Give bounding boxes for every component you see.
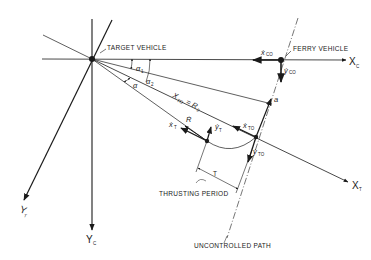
svg-text:T: T xyxy=(174,125,177,130)
svg-text:1: 1 xyxy=(141,69,144,74)
dimension-extension-left xyxy=(196,141,207,172)
xt-axis-label: X T xyxy=(352,180,362,192)
target-leader xyxy=(100,49,106,53)
svg-text:TO: TO xyxy=(176,98,184,105)
svg-text:ẋ: ẋ xyxy=(260,48,265,57)
target-vehicle-label: TARGET VEHICLE xyxy=(107,44,167,51)
ferry-vehicle-label: FERRY VEHICLE xyxy=(293,45,349,52)
ferry-vehicle-point xyxy=(278,57,284,63)
svg-text:C: C xyxy=(93,241,97,246)
alpha-label: α xyxy=(133,81,138,90)
svg-text:CO: CO xyxy=(289,70,296,75)
xc-axis xyxy=(42,59,346,60)
svg-text:T: T xyxy=(219,128,222,133)
svg-text:C: C xyxy=(356,64,360,69)
xc-axis-label: X C xyxy=(349,56,360,69)
svg-text:X: X xyxy=(352,180,359,191)
alpha1-arc xyxy=(131,59,132,69)
a-label: a xyxy=(274,95,278,104)
x-to-equals-r2-label: X TO = R 2 xyxy=(170,90,203,113)
tau-label: T xyxy=(213,170,217,177)
yt-axis-label: Y T xyxy=(18,204,31,219)
svg-text:CO: CO xyxy=(266,52,273,57)
thrust-arc xyxy=(207,137,256,149)
alpha-arc xyxy=(124,78,130,82)
svg-text:T: T xyxy=(23,213,28,219)
a-vector xyxy=(256,99,271,137)
svg-text:T: T xyxy=(359,187,362,192)
thrust-start-point xyxy=(205,139,209,143)
thrusting-period-label: THRUSTING PERIOD xyxy=(159,190,228,197)
svg-text:2: 2 xyxy=(151,82,154,87)
thrusting-period-leader xyxy=(196,179,206,183)
target-vehicle-point xyxy=(89,56,95,62)
y-co-label: ẏ CO xyxy=(283,66,296,75)
x-t-vector xyxy=(181,128,207,141)
svg-text:ẋ: ẋ xyxy=(168,120,173,129)
svg-text:TO: TO xyxy=(258,152,265,157)
alpha1-line xyxy=(92,59,272,104)
svg-text:ẋ: ẋ xyxy=(242,121,247,130)
rendezvous-geometry-diagram: TARGET VEHICLE FERRY VEHICLE THRUSTING P… xyxy=(0,0,371,260)
x-t-label: ẋ T xyxy=(168,120,177,130)
tau-dimension xyxy=(198,168,238,189)
svg-text:Y: Y xyxy=(86,234,93,245)
alpha1-label: α 1 xyxy=(136,64,144,74)
svg-text:2: 2 xyxy=(196,107,201,113)
y-to-label: ẏ TO xyxy=(252,147,265,157)
x-co-label: ẋ CO xyxy=(260,48,273,57)
yc-axis-label: Y C xyxy=(86,234,97,246)
uncontrolled-path-label: UNCONTROLLED PATH xyxy=(194,242,271,249)
x-to-label: ẋ TO xyxy=(242,121,255,131)
r-dot-label: Ṙ xyxy=(186,115,192,124)
y-t-label: ẏ T xyxy=(214,122,222,133)
to-point xyxy=(254,135,258,139)
svg-text:TO: TO xyxy=(248,126,255,131)
xt-axis xyxy=(92,59,348,182)
svg-text:X: X xyxy=(349,56,356,67)
alpha2-label: α 2 xyxy=(146,77,154,87)
xt-axis-extension xyxy=(43,35,92,59)
r-vector xyxy=(185,126,207,141)
